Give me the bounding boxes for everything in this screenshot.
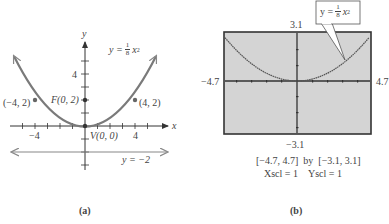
equation-label-a: y = 1 8 x2	[109, 42, 140, 57]
equation-label-b: y = 1 8 x2	[320, 4, 350, 19]
point-right-label: (4, 2)	[139, 98, 161, 108]
x-tick-4: 4	[133, 131, 138, 141]
y-tick-4: 4	[72, 70, 77, 80]
ymin-label: −3.1	[286, 140, 304, 150]
xscl-label: Xscl = 1	[264, 169, 298, 179]
point-right	[133, 98, 137, 102]
x-tick-neg4: −4	[29, 131, 40, 141]
xmax-label: 4.7	[376, 77, 389, 87]
fraction: 1 8	[125, 42, 131, 57]
figure-svg	[0, 0, 389, 224]
x-axis-label: x	[172, 121, 176, 131]
focus-label: F(0, 2)	[51, 95, 79, 105]
window-range: [−4.7, 4.7] by [−3.1, 3.1]	[256, 156, 361, 166]
ymax-label: 3.1	[290, 20, 303, 30]
focus-point	[83, 98, 87, 102]
point-left-label: (−4, 2)	[3, 98, 30, 108]
vertex-label: V(0, 0)	[90, 131, 118, 141]
vertex-point	[83, 124, 87, 128]
caption-a: (a)	[79, 206, 91, 216]
fraction-b: 1 8	[335, 4, 341, 19]
eq-prefix: y =	[109, 45, 123, 55]
xmin-label: −4.7	[201, 77, 219, 87]
yscl-label: Yscl = 1	[308, 169, 342, 179]
caption-b: (b)	[290, 206, 302, 216]
y-axis-label: y	[82, 29, 86, 39]
directrix-label: y = −2	[122, 155, 150, 165]
point-left	[33, 98, 37, 102]
